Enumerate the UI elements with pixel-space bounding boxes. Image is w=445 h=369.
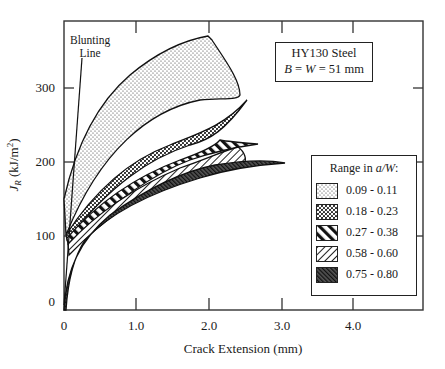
band-0.75-0.80 [64,161,285,310]
legend-title: Range in a/W: [312,161,416,176]
dim-eq: = [292,62,305,76]
legend-item: 0.09 - 0.11 [316,183,416,199]
y-axis-label-close: ) [6,139,21,143]
x-tick-label: 0 [61,318,68,334]
coarse-dots-swatch-icon [316,204,338,220]
dim-value: = 51 mm [316,62,364,76]
dim-w: W [305,62,315,76]
y-axis-label-unit: (kJ/m [6,147,21,180]
x-tick-label: 4.0 [345,318,361,334]
y-axis-label-sub: R [13,180,23,186]
x-axis-label: Crack Extension (mm) [184,341,302,357]
y-tick-label: 100 [25,228,55,244]
y-tick-label: 200 [25,154,55,170]
legend: Range in a/W: 0.09 - 0.11 0.18 - 0.23 0.… [311,155,417,296]
x-tick-label: 2.0 [201,318,217,334]
back-diagonal-swatch-icon [316,246,338,262]
legend-item: 0.58 - 0.60 [316,246,416,262]
legend-title-var: a/W [376,161,395,175]
legend-title-suffix: : [395,161,398,175]
dark-hatch-swatch-icon [316,267,338,283]
x-tick-label: 1.0 [128,318,144,334]
y-axis-label-var: J [6,186,21,192]
blunting-line2: Line [70,47,110,60]
y-axis-label-sup: 2 [5,143,15,148]
y-tick-label: 0 [25,294,55,310]
legend-item-label: 0.09 - 0.11 [346,183,398,198]
material-info-box: HY130 Steel B = W = 51 mm [275,42,373,82]
legend-title-prefix: Range in [330,161,376,175]
y-tick-label: 300 [25,80,55,96]
legend-item: 0.75 - 0.80 [316,267,416,283]
legend-item: 0.27 - 0.38 [316,225,416,241]
legend-item-label: 0.27 - 0.38 [346,225,398,240]
blunting-annotation: Blunting Line [70,34,110,60]
material-name: HY130 Steel [276,45,372,61]
legend-item-label: 0.18 - 0.23 [346,204,398,219]
legend-item-label: 0.58 - 0.60 [346,246,398,261]
blunting-line1: Blunting [70,34,110,47]
dim-b: B [284,62,292,76]
bold-diagonal-swatch-icon [316,225,338,241]
x-tick-label: 3.0 [274,318,290,334]
fine-dots-swatch-icon [316,183,338,199]
specimen-dimensions: B = W = 51 mm [276,61,372,77]
legend-item-label: 0.75 - 0.80 [346,267,398,282]
y-axis-label: JR (kJ/m2) [5,139,24,192]
legend-item: 0.18 - 0.23 [316,204,416,220]
